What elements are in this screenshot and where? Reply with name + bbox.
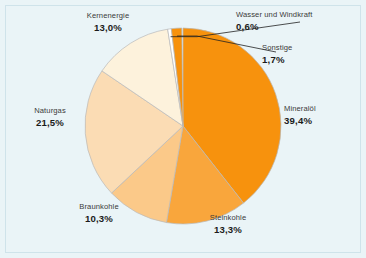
slice-label-sonstige: Sonstige 1,7% [262, 44, 354, 65]
slice-value-naturgas: 21,5% [12, 117, 88, 128]
slice-label-mineraloel: Mineralöl 39,4% [284, 105, 360, 126]
slice-category-mineraloel: Mineralöl [284, 105, 360, 114]
slice-category-naturgas: Naturgas [12, 107, 88, 116]
slice-category-wasser-und-windkraft: Wasser und Windkraft [236, 11, 362, 20]
slice-label-steinkohle: Steinkohle 13,3% [183, 214, 273, 235]
slice-label-wasser-und-windkraft: Wasser und Windkraft 0,6% [236, 11, 362, 32]
slice-value-steinkohle: 13,3% [183, 224, 273, 235]
slice-value-braunkohle: 10,3% [54, 213, 144, 224]
pie-slices-group [85, 28, 281, 224]
slice-label-kernenergie: Kernenergie 13,0% [60, 12, 156, 33]
slice-value-mineraloel: 39,4% [284, 115, 360, 126]
slice-value-wasser-und-windkraft: 0,6% [236, 21, 362, 32]
slice-value-sonstige: 1,7% [262, 54, 354, 65]
slice-category-kernenergie: Kernenergie [60, 12, 156, 21]
pie-chart-figure: Mineralöl 39,4% Steinkohle 13,3% Braunko… [0, 0, 366, 258]
slice-label-naturgas: Naturgas 21,5% [12, 107, 88, 128]
slice-category-steinkohle: Steinkohle [183, 214, 273, 223]
slice-category-sonstige: Sonstige [262, 44, 354, 53]
slice-value-kernenergie: 13,0% [60, 22, 156, 33]
slice-label-braunkohle: Braunkohle 10,3% [54, 203, 144, 224]
slice-category-braunkohle: Braunkohle [54, 203, 144, 212]
